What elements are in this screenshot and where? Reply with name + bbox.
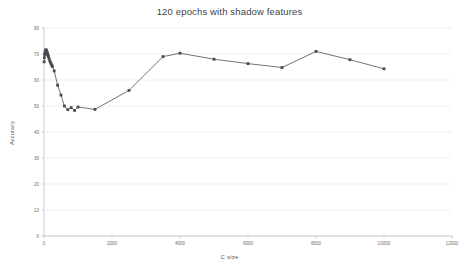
data-point-marker (315, 50, 318, 53)
x-tick-label: 12000 (446, 241, 459, 246)
data-point-marker (43, 60, 46, 63)
data-point-marker (213, 58, 216, 61)
y-tick-label: 50 (34, 104, 40, 109)
data-point-marker (162, 55, 165, 58)
plot-area: 01020304050607080 0200040006000800010000… (0, 0, 459, 275)
y-tick-label: 40 (34, 130, 40, 135)
data-point-marker (77, 106, 80, 109)
data-point-marker (281, 66, 284, 69)
data-point-marker (60, 94, 63, 97)
y-tick-label: 20 (34, 182, 40, 187)
y-tick-label: 60 (34, 78, 40, 83)
data-point-marker (383, 67, 386, 70)
x-tick-label: 6000 (243, 241, 254, 246)
data-point-marker (43, 56, 46, 59)
y-tick-label: 30 (34, 156, 40, 161)
x-tick-label: 10000 (378, 241, 391, 246)
data-point-marker (51, 65, 54, 68)
data-point-marker (349, 58, 352, 61)
data-point-marker (94, 108, 97, 111)
x-tick-label: 8000 (311, 241, 322, 246)
x-tick-label: 4000 (175, 241, 186, 246)
data-point-marker (247, 62, 250, 65)
x-tick-label: 0 (43, 241, 46, 246)
y-tick-label: 70 (34, 52, 40, 57)
grid-lines (44, 28, 452, 236)
chart-figure: 120 epochs with shadow features Accuracy… (0, 0, 459, 275)
data-point-marker (56, 84, 59, 87)
data-point-marker (73, 109, 76, 112)
x-axis-ticks: 020004000600080001000012000 (43, 236, 459, 246)
y-tick-label: 10 (34, 208, 40, 213)
y-tick-label: 0 (36, 234, 39, 239)
y-tick-label: 80 (34, 26, 40, 31)
data-point-marker (128, 89, 131, 92)
data-point-marker (70, 106, 73, 109)
data-point-marker (53, 70, 56, 73)
data-point-marker (66, 108, 69, 111)
x-tick-label: 2000 (107, 241, 118, 246)
y-axis-ticks: 01020304050607080 (34, 26, 44, 239)
data-point-marker (63, 105, 66, 108)
data-point-marker (179, 52, 182, 55)
